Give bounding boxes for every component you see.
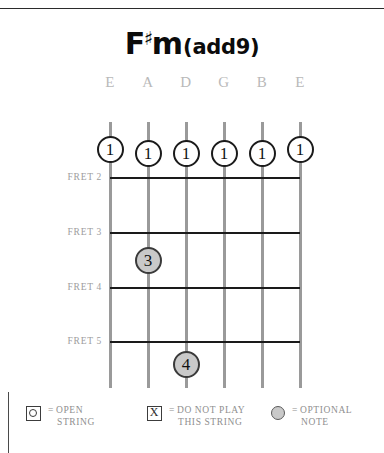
legend-open-line2: STRING <box>57 416 95 428</box>
fret-label-3: FRET 3 <box>40 227 102 237</box>
legend-optional-line2: NOTE <box>301 416 352 428</box>
fret-line-5 <box>110 341 300 343</box>
legend-muted-line1: DO NOT PLAY <box>177 405 245 415</box>
finger-dot-pinky-d-string[interactable]: 4 <box>173 351 200 378</box>
fretboard: FRET 2 FRET 3 FRET 4 FRET 5 1 1 1 1 1 1 … <box>0 0 384 400</box>
legend-equals-muted: = <box>169 405 175 415</box>
legend-optional-line1: OPTIONAL <box>300 405 352 415</box>
muted-string-x-glyph: X <box>148 406 160 419</box>
fret-label-5: FRET 5 <box>40 336 102 346</box>
legend-item-optional-note: =OPTIONAL NOTE <box>271 404 352 428</box>
finger-dot-ring-a-string[interactable]: 3 <box>135 247 162 274</box>
finger-dot-barre-2[interactable]: 1 <box>135 140 162 167</box>
fret-line-2 <box>110 177 300 179</box>
legend-text-optional-note: =OPTIONAL NOTE <box>292 404 352 428</box>
legend-item-open-string: =OPEN STRING <box>26 404 95 428</box>
legend: =OPEN STRING X =DO NOT PLAY THIS STRING … <box>0 404 384 444</box>
chord-diagram-page: F♯m(add9) E A D G B E FRET 2 FRET 3 FRET… <box>0 0 384 453</box>
finger-dot-barre-3[interactable]: 1 <box>173 140 200 167</box>
fret-label-2: FRET 2 <box>40 172 102 182</box>
legend-muted-line2: THIS STRING <box>178 416 245 428</box>
legend-equals-open: = <box>48 405 54 415</box>
legend-text-muted-string: =DO NOT PLAY THIS STRING <box>169 404 245 428</box>
optional-note-icon <box>271 406 285 420</box>
muted-string-icon: X <box>147 406 162 421</box>
finger-dot-barre-1[interactable]: 1 <box>97 136 124 163</box>
finger-dot-barre-6[interactable]: 1 <box>287 136 314 163</box>
fret-label-4: FRET 4 <box>40 282 102 292</box>
legend-open-line1: OPEN <box>56 405 83 415</box>
fret-line-4 <box>110 287 300 289</box>
legend-equals-optional: = <box>292 405 298 415</box>
legend-item-muted-string: X =DO NOT PLAY THIS STRING <box>147 404 245 428</box>
finger-dot-barre-5[interactable]: 1 <box>249 140 276 167</box>
open-string-icon <box>26 406 41 421</box>
open-string-circle <box>29 409 37 417</box>
finger-dot-barre-4[interactable]: 1 <box>211 140 238 167</box>
fret-line-3 <box>110 232 300 234</box>
legend-text-open-string: =OPEN STRING <box>48 404 95 428</box>
